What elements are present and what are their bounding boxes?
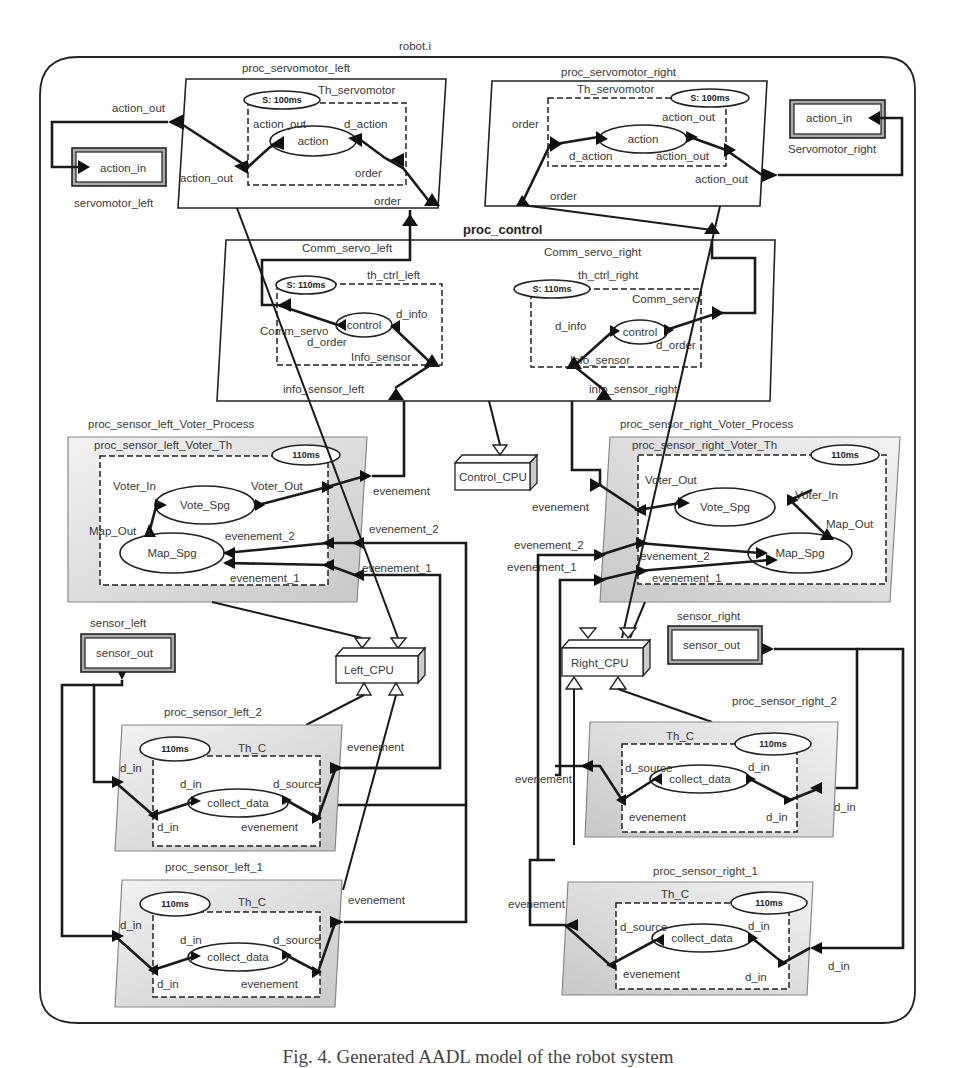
port-label: action_out xyxy=(112,102,166,114)
device-port-label: action_in xyxy=(806,112,852,124)
process-label: proc_sensor_left_Voter_Process xyxy=(88,418,254,430)
process-servomotor-right: proc_servomotor_right Th_servomotor S: 1… xyxy=(485,66,778,206)
port-label: evenement xyxy=(241,978,299,990)
subprogram-label: Map_Spg xyxy=(147,547,196,559)
port-label: Voter_Out xyxy=(251,480,304,492)
port-label: order xyxy=(512,118,539,130)
port-label: d_source xyxy=(273,934,320,946)
device-port-label: action_in xyxy=(100,162,146,174)
thread-label: Th_servomotor xyxy=(318,84,396,96)
thread-label: th_ctrl_right xyxy=(578,269,639,281)
subprogram-label: action xyxy=(628,133,659,145)
system-name: robot.i xyxy=(399,40,431,52)
process-sensor-right-2: proc_sensor_right_2 Th_C 110ms collect_d… xyxy=(515,695,856,837)
port-label: info_sensor_left xyxy=(283,383,365,395)
port-label: evenement xyxy=(532,501,590,513)
subprogram-label: Vote_Spg xyxy=(180,499,230,511)
port-label: d_info xyxy=(396,308,427,320)
port-label: order xyxy=(355,167,382,179)
device-servomotor-left: action_in servomotor_left xyxy=(52,122,168,209)
period-badge: S: 110ms xyxy=(286,280,325,290)
port-label: action_out xyxy=(180,172,234,184)
process-label: proc_sensor_left_1 xyxy=(165,861,263,873)
process-label: proc_sensor_right_1 xyxy=(653,865,758,877)
port-label: d_in xyxy=(157,978,179,990)
process-label: proc_servomotor_right xyxy=(561,66,677,78)
thread-label: Th_C xyxy=(661,888,689,900)
port-label: action_out xyxy=(662,111,716,123)
process-sensor-right-1: proc_sensor_right_1 Th_C 110ms collect_d… xyxy=(508,860,850,995)
port-label: evenement xyxy=(629,811,687,823)
subprogram-label: collect_data xyxy=(669,773,731,785)
port-label: d_action xyxy=(569,150,612,162)
port-label: d_in xyxy=(157,821,179,833)
process-control: proc_control Comm_servo_left Comm_servo_… xyxy=(217,205,775,401)
period-badge: 110ms xyxy=(831,450,859,460)
port-label: Map_Out xyxy=(89,525,137,537)
port-label: d_in xyxy=(180,778,202,790)
port-label: d_in xyxy=(748,761,770,773)
process-label: proc_control xyxy=(463,222,542,237)
port-label: evenement_2 xyxy=(225,530,295,542)
port-label: order xyxy=(374,195,401,207)
device-label: sensor_left xyxy=(90,617,147,629)
port-label: evenement_1 xyxy=(652,572,722,584)
port-label: order xyxy=(550,190,577,202)
thread-label: proc_sensor_right_Voter_Th xyxy=(632,439,777,451)
port-label: d_action xyxy=(344,118,387,130)
period-badge: S: 100ms xyxy=(262,95,302,105)
port-label: evenement xyxy=(623,968,681,980)
cpu-label: Right_CPU xyxy=(571,657,629,669)
device-port-label: sensor_out xyxy=(96,647,154,659)
port-label: d_in xyxy=(828,960,850,972)
thread-label: Th_C xyxy=(666,730,694,742)
subprogram-label: collect_data xyxy=(207,797,269,809)
port-label: d_order xyxy=(307,336,347,348)
port-label: d_in xyxy=(766,811,788,823)
process-sensor-left-2: proc_sensor_left_2 Th_C 110ms collect_da… xyxy=(112,706,440,851)
period-badge: 110ms xyxy=(755,898,783,908)
cpu-label: Control_CPU xyxy=(459,471,527,483)
subprogram-label: control xyxy=(623,326,658,338)
port-label: evenement xyxy=(348,894,406,906)
port-label: action_out xyxy=(695,173,749,185)
subprogram-label: collect_data xyxy=(671,932,733,944)
device-port-label: sensor_out xyxy=(683,639,741,651)
port-label: action_out xyxy=(253,118,307,130)
binding-voter-left-to-left-cpu xyxy=(212,602,362,638)
cpu-label: Left_CPU xyxy=(344,664,394,676)
period-badge: 110ms xyxy=(759,739,787,749)
port-label: d_in xyxy=(748,920,770,932)
port-label: d_source xyxy=(273,778,320,790)
subprogram-label: Vote_Spg xyxy=(700,501,750,513)
port-label: evenement_2 xyxy=(514,539,584,551)
period-badge: 110ms xyxy=(161,899,189,909)
port-label: evenement_1 xyxy=(230,572,300,584)
subprogram-label: action xyxy=(298,135,329,147)
port-label: d_info xyxy=(555,320,586,332)
figure-caption: Fig. 4. Generated AADL model of the robo… xyxy=(0,1046,956,1068)
port-label: Info_sensor xyxy=(351,351,411,363)
process-label: proc_sensor_right_2 xyxy=(732,695,837,707)
port-label: evenement xyxy=(508,898,566,910)
port-label: Comm_servo_left xyxy=(302,242,393,254)
port-label: d_in xyxy=(180,934,202,946)
port-label: Comm_servo xyxy=(632,293,700,305)
processor-control-cpu: Control_CPU xyxy=(455,401,537,490)
port-label: d_in xyxy=(120,762,142,774)
port-label: d_source xyxy=(620,921,667,933)
period-badge: S: 100ms xyxy=(690,93,730,103)
port-label: Voter_Out xyxy=(645,474,698,486)
thread-label: th_ctrl_left xyxy=(367,269,421,281)
thread-label: Th_servomotor xyxy=(577,83,655,95)
thread-label: proc_sensor_left_Voter_Th xyxy=(94,439,232,451)
device-label: sensor_right xyxy=(677,610,741,622)
period-badge: 110ms xyxy=(161,744,189,754)
port-label: evenement_2 xyxy=(369,523,439,535)
port-label: d_source xyxy=(625,762,672,774)
period-badge: 110ms xyxy=(292,450,320,460)
process-label: proc_servomotor_left xyxy=(242,62,351,74)
process-label: proc_sensor_right_Voter_Process xyxy=(620,418,793,430)
device-label: servomotor_left xyxy=(74,197,154,209)
port-label: d_in xyxy=(834,801,856,813)
